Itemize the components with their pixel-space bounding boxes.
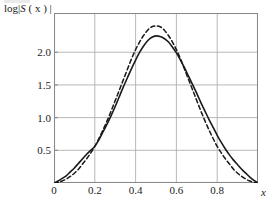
figure-chart: log|S ( x ) | 0.51.01.52.0 00.20.40.60.8…	[0, 0, 272, 210]
x-tick-label: 0.2	[88, 185, 102, 196]
axes-and-curves	[54, 13, 258, 183]
y-tick-label-group: 0.51.01.52.0	[0, 13, 51, 183]
x-tick-label: 0	[51, 185, 57, 196]
y-tick-label: 1.5	[37, 80, 51, 91]
curve-dashed	[54, 26, 258, 183]
plot-area	[54, 13, 258, 183]
y-tick-label: 2.0	[37, 47, 51, 58]
x-tick-label: 0.8	[210, 185, 224, 196]
y-tick-label: 0.5	[37, 145, 51, 156]
x-tick-label-group: 00.20.40.60.8	[54, 185, 258, 201]
x-tick-label: 0.6	[170, 185, 184, 196]
y-tick-label: 1.0	[37, 113, 51, 124]
x-axis-label: x	[261, 186, 266, 198]
x-tick-label: 0.4	[129, 185, 143, 196]
